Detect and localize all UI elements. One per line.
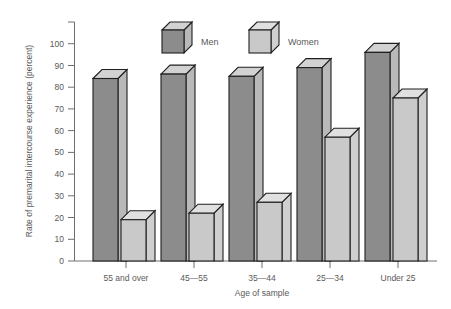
bar-women-45-55 xyxy=(189,204,223,261)
bar-chart-figure: 0 10 20 30 40 50 60 70 80 90 100 Rate of… xyxy=(0,0,451,309)
y-axis-title: Rate of premarital intercourse experienc… xyxy=(24,45,34,237)
y-tick-label: 60 xyxy=(55,126,65,136)
x-axis-ticks xyxy=(126,261,398,268)
y-tick-label: 0 xyxy=(59,256,64,266)
legend-entry-women[interactable]: Women xyxy=(249,22,319,53)
y-axis: 0 10 20 30 40 50 60 70 80 90 100 Rate of… xyxy=(24,22,75,266)
bar-women-25-34 xyxy=(325,128,359,261)
x-axis-tick-labels: 55 and over 45—55 35—44 25—34 Under 25 xyxy=(104,273,416,283)
x-axis-title: Age of sample xyxy=(235,288,290,298)
y-tick-label: 20 xyxy=(55,213,65,223)
chart-legend: Men Women xyxy=(162,22,319,53)
y-tick-label: 10 xyxy=(55,234,65,244)
x-tick-label: Under 25 xyxy=(381,273,416,283)
legend-entry-men[interactable]: Men xyxy=(162,22,219,53)
y-tick-label: 80 xyxy=(55,82,65,92)
bar-group-under-25 xyxy=(365,43,427,261)
y-tick-label: 30 xyxy=(55,191,65,201)
chart-canvas: 0 10 20 30 40 50 60 70 80 90 100 Rate of… xyxy=(0,0,451,309)
women-swatch-icon xyxy=(249,22,279,53)
legend-label-women: Women xyxy=(288,37,319,47)
men-swatch-icon xyxy=(162,22,192,53)
bar-women-35-44 xyxy=(257,193,291,261)
y-tick-label: 40 xyxy=(55,169,65,179)
x-tick-label: 55 and over xyxy=(104,273,149,283)
bar-women-under-25 xyxy=(393,89,427,261)
y-tick-label: 90 xyxy=(55,61,65,71)
y-axis-ticks xyxy=(68,22,75,261)
x-tick-label: 45—55 xyxy=(180,273,208,283)
x-tick-label: 25—34 xyxy=(316,273,344,283)
x-tick-label: 35—44 xyxy=(248,273,276,283)
y-tick-label: 100 xyxy=(50,39,64,49)
y-tick-label: 50 xyxy=(55,147,65,157)
bar-women-55-and-over xyxy=(121,211,155,261)
y-tick-label: 70 xyxy=(55,104,65,114)
y-axis-tick-labels: 0 10 20 30 40 50 60 70 80 90 100 xyxy=(50,39,64,266)
bar-group-25-34 xyxy=(297,59,359,261)
bar-group-45-55 xyxy=(161,65,223,261)
legend-label-men: Men xyxy=(201,37,219,47)
bar-group-55-and-over xyxy=(93,70,155,262)
x-axis: 55 and over 45—55 35—44 25—34 Under 25 A… xyxy=(75,261,438,298)
bar-group-35-44 xyxy=(229,67,291,261)
